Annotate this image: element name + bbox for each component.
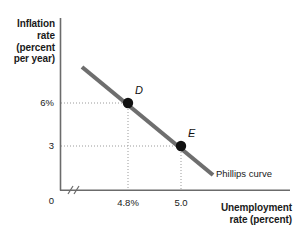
data-point-d — [123, 98, 133, 108]
y-axis-title: Inflationrate(percentper year) — [14, 18, 55, 65]
x-axis-title-line-2: rate (percent) — [229, 214, 292, 225]
x-tick-label-4-8: 4.8% — [98, 197, 158, 208]
y-axis-title-line-1: Inflation — [17, 18, 55, 29]
x-axis-title-line-1: Unemployment — [221, 202, 292, 213]
data-point-label-e: E — [188, 127, 195, 140]
phillips-curve-annotation: Phillips curve — [216, 168, 272, 179]
y-axis-title-line-3: (percent — [16, 42, 55, 53]
x-tick-label-5-0: 5.0 — [151, 197, 211, 208]
data-point-e — [176, 141, 186, 151]
y-axis-title-line-2: rate — [37, 30, 55, 41]
data-point-label-d: D — [135, 84, 143, 97]
y-tick-label-6: 6% — [20, 97, 54, 108]
y-axis-title-line-4: per year) — [14, 53, 55, 64]
phillips-curve-line — [82, 67, 213, 175]
phillips-curve-figure: Inflationrate(percentper year) Unemploym… — [0, 0, 303, 233]
y-tick-label-3: 3 — [20, 140, 54, 151]
origin-label: 0 — [20, 195, 54, 206]
